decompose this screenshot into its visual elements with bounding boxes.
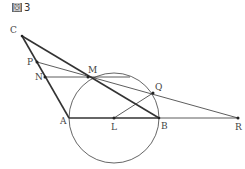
- point-M: [87, 76, 90, 79]
- label-P: P: [27, 57, 33, 67]
- label-M: M: [88, 65, 97, 75]
- geometry-diagram: C P N M Q A L B R: [0, 0, 245, 169]
- point-P: [36, 61, 39, 64]
- label-R: R: [235, 122, 242, 132]
- label-Q: Q: [155, 82, 162, 92]
- label-C: C: [10, 25, 17, 35]
- point-R: [237, 117, 240, 120]
- label-N: N: [35, 72, 43, 82]
- segment-LQ: [114, 93, 153, 118]
- label-B: B: [161, 121, 168, 131]
- label-L: L: [111, 122, 117, 132]
- point-N: [44, 76, 47, 79]
- line-PR: [37, 62, 238, 118]
- label-A: A: [59, 116, 67, 126]
- point-L: [113, 117, 116, 120]
- point-B: [158, 117, 161, 120]
- point-C: [21, 35, 24, 38]
